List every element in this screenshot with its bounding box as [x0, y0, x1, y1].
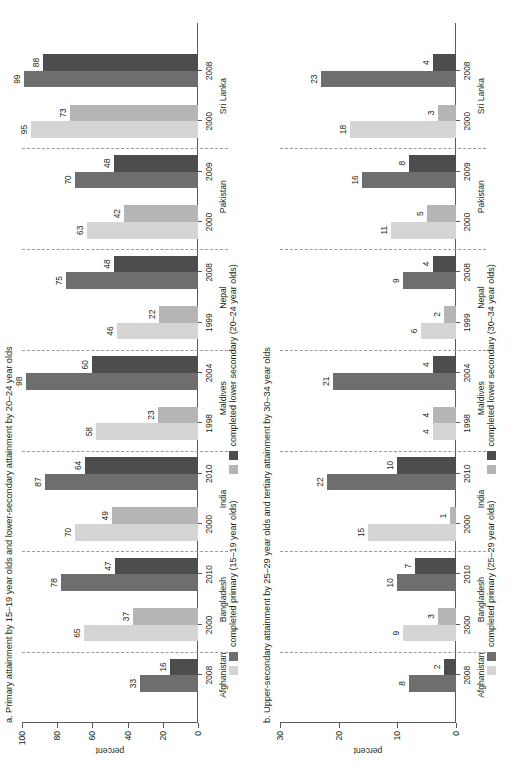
year-label: 2009 — [462, 146, 472, 196]
year-label: 2004 — [204, 348, 214, 398]
bar-value-label: 2 — [432, 312, 442, 317]
bar: 6 — [421, 323, 456, 340]
x-axis-tick — [456, 120, 460, 121]
x-axis-tick — [198, 422, 202, 423]
bar-value-label: 16 — [158, 662, 168, 671]
panel-b: b. Upper-secondary attainment by 25–29 y… — [262, 0, 512, 775]
bar: 7 — [415, 558, 456, 575]
x-axis-tick — [198, 221, 202, 222]
bar: 95 — [31, 121, 198, 138]
bar: 21 — [333, 373, 456, 390]
bar: 99 — [24, 71, 198, 88]
bar-value-label: 2 — [432, 665, 442, 670]
x-axis-tick — [198, 171, 202, 172]
y-axis-tick-label: 0 — [193, 731, 203, 736]
legend-item: completed primary (15–19 year olds) — [228, 500, 238, 675]
year-label: 2000 — [204, 600, 214, 650]
bar-value-label: 4 — [421, 413, 431, 418]
bar-value-label: 46 — [105, 326, 115, 335]
y-axis-tick-label: 10 — [392, 731, 402, 741]
year-block: 2000183 — [280, 96, 456, 146]
bar-value-label: 65 — [72, 628, 82, 637]
bar-value-label: 22 — [147, 310, 157, 319]
group-separator — [22, 451, 228, 452]
year-block: 19994622 — [22, 297, 198, 347]
bar-value-label: 5 — [415, 211, 425, 216]
bar-value-label: 15 — [356, 528, 366, 537]
bar-value-label: 88 — [31, 58, 41, 67]
bar: 16 — [362, 172, 456, 189]
legend-swatch-early-icon — [229, 465, 238, 474]
group-separator — [22, 551, 228, 552]
bar-value-label: 58 — [84, 427, 94, 436]
bar: 2 — [444, 306, 456, 323]
year-label: 2000 — [204, 197, 214, 247]
bar: 33 — [140, 675, 198, 692]
bar-value-label: 23 — [146, 410, 156, 419]
y-axis-tick — [128, 723, 129, 728]
bar-value-label: 4 — [421, 262, 431, 267]
bar: 70 — [75, 172, 198, 189]
bar-value-label: 16 — [350, 175, 360, 184]
panel-a-title: a. Primary attainment by 15–19 year olds… — [4, 346, 14, 723]
bar-value-label: 95 — [19, 125, 29, 134]
x-axis-tick — [456, 573, 460, 574]
legend-label: completed lower secondary (30–34 year ol… — [486, 264, 496, 446]
bar: 88 — [43, 54, 198, 71]
legend-swatch-late-icon — [487, 652, 496, 661]
bar: 8 — [409, 155, 456, 172]
bar: 5 — [427, 205, 456, 222]
country-group: Afghanistan200882 — [280, 650, 456, 700]
bar: 15 — [368, 524, 456, 541]
x-axis-tick — [456, 221, 460, 222]
year-block: 20102210 — [280, 449, 456, 499]
x-axis-tick — [456, 624, 460, 625]
y-axis-tick-label: 20 — [334, 731, 344, 741]
country-label: Afghanistan — [476, 650, 486, 700]
panel-b-legend: completed primary (25–29 year olds)compl… — [486, 264, 496, 675]
y-axis-tick-label: 40 — [123, 731, 133, 741]
year-block: 2004214 — [280, 348, 456, 398]
x-axis-tick — [456, 70, 460, 71]
bar: 3 — [438, 608, 456, 625]
country-label: Pakistan — [476, 146, 486, 247]
figure-rotation-wrapper: a. Primary attainment by 15–19 year olds… — [0, 0, 518, 775]
bar-value-label: 21 — [321, 377, 331, 386]
year-block: 2008234 — [280, 46, 456, 96]
bar: 75 — [66, 272, 198, 289]
year-label: 2000 — [462, 499, 472, 549]
y-axis-tick-label: 80 — [52, 731, 62, 741]
bar-value-label: 33 — [128, 679, 138, 688]
year-label: 2008 — [204, 247, 214, 297]
bar-value-label: 48 — [102, 159, 112, 168]
bar-value-label: 70 — [63, 528, 73, 537]
country-label: India — [218, 449, 228, 550]
year-label: 2000 — [204, 499, 214, 549]
country-group: Nepal199962200894 — [280, 247, 456, 348]
bar-value-label: 4 — [421, 362, 431, 367]
country-group: Sri Lanka20001832008234 — [280, 46, 456, 147]
group-separator — [280, 148, 486, 149]
x-axis-tick — [456, 422, 460, 423]
bar-value-label: 11 — [379, 226, 389, 235]
panel-a: a. Primary attainment by 15–19 year olds… — [4, 0, 254, 775]
group-separator — [22, 652, 228, 653]
legend-swatch-late-icon — [229, 451, 238, 460]
country-group: Afghanistan20083316 — [22, 650, 198, 700]
country-label: Sri Lanka — [476, 46, 486, 147]
bar: 46 — [117, 323, 198, 340]
y-axis-tick — [22, 723, 23, 728]
year-block: 20087548 — [22, 247, 198, 297]
bar-value-label: 48 — [102, 259, 112, 268]
bar-value-label: 49 — [100, 511, 110, 520]
year-block: 199844 — [280, 398, 456, 448]
country-label: Maldives — [476, 348, 486, 449]
country-group: Sri Lanka2000957320089988 — [22, 46, 198, 147]
bar: 60 — [92, 356, 198, 373]
group-separator — [280, 350, 486, 351]
y-axis-tick — [163, 723, 164, 728]
bar-value-label: 98 — [14, 377, 24, 386]
group-separator — [22, 148, 228, 149]
bar: 70 — [75, 524, 198, 541]
year-block: 200882 — [280, 650, 456, 700]
